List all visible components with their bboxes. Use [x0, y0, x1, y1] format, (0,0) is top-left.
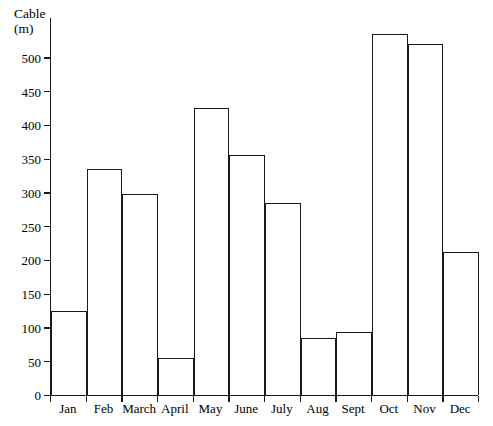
y-tick-label: 450 — [22, 85, 42, 98]
y-tick: 200 — [44, 260, 51, 261]
y-tick: 100 — [44, 327, 51, 328]
x-tick-label: Jan — [50, 400, 86, 418]
x-tick-label: July — [264, 400, 300, 418]
x-tick-label: Dec — [442, 400, 478, 418]
y-tick-label: 50 — [28, 355, 41, 368]
x-tick-label: March — [121, 400, 157, 418]
y-tick: 50 — [44, 361, 51, 362]
bar — [158, 358, 194, 395]
bar — [122, 194, 158, 395]
y-tick: 400 — [44, 125, 51, 126]
y-tick-label: 0 — [35, 389, 42, 402]
y-tick-label: 200 — [22, 254, 42, 267]
bar — [229, 155, 265, 395]
y-tick: 150 — [44, 294, 51, 295]
y-axis-title: Cable (m) — [14, 6, 46, 36]
x-tick-label: Sept — [335, 400, 371, 418]
bar-chart: Cable (m) 050100150200250300350400450500… — [0, 0, 493, 426]
x-axis-labels: JanFebMarchAprilMayJuneJulyAugSeptOctNov… — [50, 400, 478, 424]
y-tick-label: 150 — [22, 288, 42, 301]
bar — [265, 203, 301, 395]
x-tick — [478, 396, 479, 402]
y-tick-label: 250 — [22, 220, 42, 233]
y-tick: 300 — [44, 192, 51, 193]
bar — [301, 338, 337, 395]
x-tick-label: Aug — [300, 400, 336, 418]
x-tick-label: Feb — [86, 400, 122, 418]
bar — [372, 34, 408, 395]
bar — [87, 169, 123, 395]
x-tick-label: Oct — [371, 400, 407, 418]
x-tick-label: May — [193, 400, 229, 418]
y-tick: 350 — [44, 159, 51, 160]
bar — [443, 252, 479, 395]
y-tick: 450 — [44, 91, 51, 92]
y-tick-label: 400 — [22, 119, 42, 132]
bar — [336, 332, 372, 395]
x-tick-label: Nov — [407, 400, 443, 418]
y-tick-label: 500 — [22, 51, 42, 64]
y-tick: 250 — [44, 226, 51, 227]
x-tick-label: June — [228, 400, 264, 418]
bar-series — [51, 18, 478, 395]
y-tick-label: 100 — [22, 321, 42, 334]
plot-area: 050100150200250300350400450500 — [50, 18, 478, 396]
bar — [51, 311, 87, 395]
bar — [194, 108, 230, 395]
x-tick-label: April — [157, 400, 193, 418]
bar — [408, 44, 444, 395]
y-tick-label: 350 — [22, 153, 42, 166]
y-tick-label: 300 — [22, 186, 42, 199]
y-tick: 500 — [44, 57, 51, 58]
